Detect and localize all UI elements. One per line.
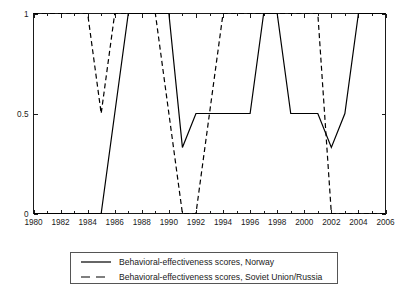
svg-text:1: 1 [24,10,29,19]
svg-text:1992: 1992 [187,218,206,227]
svg-text:0: 0 [24,210,29,219]
svg-text:1984: 1984 [79,218,98,227]
svg-text:2000: 2000 [295,218,314,227]
legend-swatch-solid-icon [79,257,113,267]
series-line-norway [34,14,386,214]
legend-entry-norway: Behavioral-effectiveness scores, Norway [71,254,337,269]
svg-text:1980: 1980 [24,218,43,227]
svg-text:1998: 1998 [268,218,287,227]
x-axis-tick-labels: 1980198219841986198819901992199419961998… [24,218,395,227]
svg-text:1996: 1996 [241,218,260,227]
legend-label-norway: Behavioral-effectiveness scores, Norway [119,257,274,267]
svg-text:1990: 1990 [160,218,179,227]
svg-text:1994: 1994 [214,218,233,227]
svg-text:1988: 1988 [133,218,152,227]
legend-swatch-dashed-icon [79,272,113,282]
data-series-group [34,14,386,214]
line-chart-plot: 1980198219841986198819901992199419961998… [0,0,401,250]
svg-text:2004: 2004 [349,218,368,227]
svg-text:1986: 1986 [106,218,125,227]
svg-text:0.5: 0.5 [17,110,29,119]
legend-label-soviet-union-russia: Behavioral-effectiveness scores, Soviet … [119,272,322,282]
svg-text:1982: 1982 [51,218,70,227]
y-axis-ticks [34,15,386,215]
chart-legend: Behavioral-effectiveness scores, Norway … [70,252,338,284]
y-axis-tick-labels: 00.51 [17,10,29,219]
svg-text:2002: 2002 [322,218,341,227]
svg-text:2006: 2006 [376,218,395,227]
legend-entry-soviet-union-russia: Behavioral-effectiveness scores, Soviet … [71,269,337,284]
chart-figure: 1980198219841986198819901992199419961998… [0,0,401,298]
